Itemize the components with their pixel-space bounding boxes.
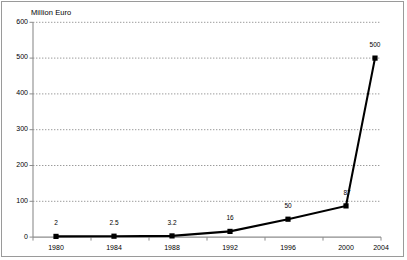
data-point-label-2004: 500 bbox=[360, 41, 390, 48]
x-tick-label-1980: 1980 bbox=[41, 244, 71, 251]
chart-container: Million Euro 600 500 400 300 200 100 0 bbox=[0, 0, 407, 260]
data-series-line bbox=[56, 58, 375, 236]
x-tick-label-2004: 2004 bbox=[366, 244, 396, 251]
gridlines bbox=[33, 22, 381, 201]
x-tick-label-2000: 2000 bbox=[331, 244, 361, 251]
data-point-markers bbox=[53, 56, 377, 240]
x-tick-label-1984: 1984 bbox=[99, 244, 129, 251]
data-point-label-2000: 87 bbox=[332, 189, 362, 196]
data-point-label-1984: 2.5 bbox=[99, 219, 129, 226]
data-point-label-1992: 16 bbox=[215, 214, 245, 221]
data-point-label-1988: 3.2 bbox=[157, 219, 187, 226]
x-tick-label-1988: 1988 bbox=[157, 244, 187, 251]
x-tick-label-1992: 1992 bbox=[215, 244, 245, 251]
data-point-label-1996: 50 bbox=[273, 202, 303, 209]
x-tick-label-1996: 1996 bbox=[273, 244, 303, 251]
data-point-label-1980: 2 bbox=[41, 219, 71, 226]
